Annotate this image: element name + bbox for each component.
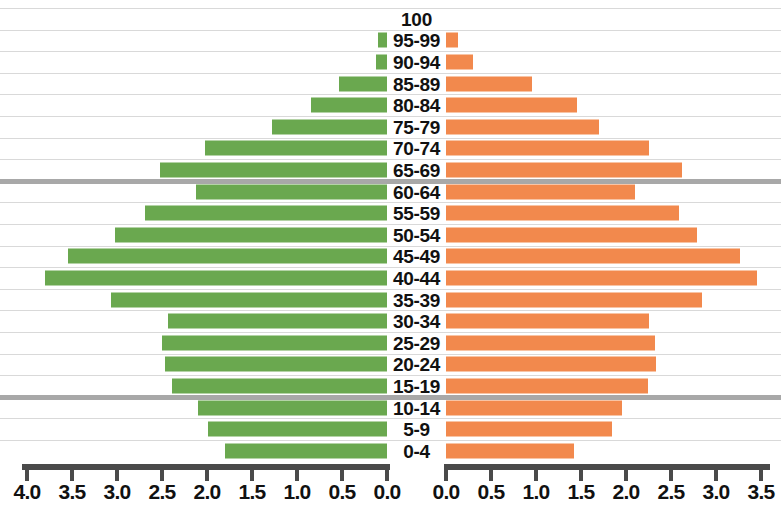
x-tick-label: 1.5 bbox=[568, 481, 595, 503]
age-group-label: 95-99 bbox=[387, 31, 446, 50]
bar-left bbox=[45, 270, 387, 285]
age-group-label: 75-79 bbox=[387, 117, 446, 136]
bar-right bbox=[446, 119, 599, 134]
left-bar-cell bbox=[0, 8, 387, 30]
right-bar-cell bbox=[446, 138, 781, 160]
pyramid-row: 35-39 bbox=[0, 289, 781, 311]
bar-left bbox=[272, 119, 387, 134]
age-group-label: 85-89 bbox=[387, 74, 446, 93]
x-axis-left bbox=[22, 464, 390, 470]
right-bar-cell bbox=[446, 159, 781, 181]
pyramid-row: 90-94 bbox=[0, 51, 781, 73]
bar-left bbox=[162, 335, 387, 350]
bar-left bbox=[225, 443, 387, 458]
pyramid-row: 10-14 bbox=[0, 397, 781, 419]
bar-left bbox=[172, 378, 387, 393]
right-bar-cell bbox=[446, 202, 781, 224]
pyramid-row: 75-79 bbox=[0, 116, 781, 138]
x-tick-label: 3.5 bbox=[59, 481, 86, 503]
left-bar-cell bbox=[0, 159, 387, 181]
bar-right bbox=[446, 443, 574, 458]
bar-left bbox=[198, 400, 387, 415]
bar-right bbox=[446, 98, 577, 113]
age-group-label: 45-49 bbox=[387, 247, 446, 266]
left-bar-cell bbox=[0, 138, 387, 160]
reference-line bbox=[0, 179, 781, 184]
pyramid-row: 30-34 bbox=[0, 310, 781, 332]
age-group-label: 70-74 bbox=[387, 139, 446, 158]
right-bar-cell bbox=[446, 310, 781, 332]
pyramid-row: 20-24 bbox=[0, 354, 781, 376]
right-bar-cell bbox=[446, 73, 781, 95]
x-tick-label: 2.5 bbox=[658, 481, 685, 503]
bar-left bbox=[115, 227, 387, 242]
bar-left bbox=[145, 206, 387, 221]
age-group-label: 15-19 bbox=[387, 376, 446, 395]
population-pyramid-chart: 10095-9990-9485-8980-8475-7970-7465-6960… bbox=[0, 0, 781, 508]
pyramid-row: 80-84 bbox=[0, 94, 781, 116]
pyramid-row: 65-69 bbox=[0, 159, 781, 181]
right-bar-cell bbox=[446, 246, 781, 268]
bar-right bbox=[446, 270, 757, 285]
age-group-label: 65-69 bbox=[387, 160, 446, 179]
left-bar-cell bbox=[0, 224, 387, 246]
left-bar-cell bbox=[0, 94, 387, 116]
bar-left bbox=[378, 33, 387, 48]
bar-right bbox=[446, 292, 702, 307]
age-group-label: 80-84 bbox=[387, 96, 446, 115]
age-group-label: 55-59 bbox=[387, 204, 446, 223]
left-bar-cell bbox=[0, 397, 387, 419]
bar-right bbox=[446, 227, 697, 242]
left-bar-cell bbox=[0, 375, 387, 397]
category-rows: 10095-9990-9485-8980-8475-7970-7465-6960… bbox=[0, 0, 781, 462]
x-tick-label: 3.0 bbox=[703, 481, 730, 503]
x-tick-label: 2.5 bbox=[149, 481, 176, 503]
x-tick-label: 3.0 bbox=[104, 481, 131, 503]
age-group-label: 40-44 bbox=[387, 268, 446, 287]
left-bar-cell bbox=[0, 354, 387, 376]
pyramid-row: 95-99 bbox=[0, 30, 781, 52]
pyramid-row: 25-29 bbox=[0, 332, 781, 354]
left-bar-cell bbox=[0, 116, 387, 138]
bar-left bbox=[196, 184, 387, 199]
bar-right bbox=[446, 249, 740, 264]
pyramid-row: 85-89 bbox=[0, 73, 781, 95]
left-bar-cell bbox=[0, 332, 387, 354]
pyramid-row: 0-4 bbox=[0, 440, 781, 462]
left-bar-cell bbox=[0, 73, 387, 95]
x-tick-label: 0.5 bbox=[329, 481, 356, 503]
bar-right bbox=[446, 357, 656, 372]
x-tick-label: 0.5 bbox=[478, 481, 505, 503]
left-bar-cell bbox=[0, 289, 387, 311]
age-group-label: 30-34 bbox=[387, 312, 446, 331]
plot-area: 10095-9990-9485-8980-8475-7970-7465-6960… bbox=[0, 0, 781, 462]
right-bar-cell bbox=[446, 440, 781, 462]
bar-right bbox=[446, 314, 649, 329]
bar-left bbox=[68, 249, 388, 264]
age-group-label: 0-4 bbox=[387, 441, 446, 460]
left-bar-cell bbox=[0, 418, 387, 440]
bar-left bbox=[165, 357, 387, 372]
bar-right bbox=[446, 400, 622, 415]
bar-left bbox=[205, 141, 387, 156]
bar-right bbox=[446, 422, 612, 437]
x-tick-label: 0.0 bbox=[374, 481, 401, 503]
bar-right bbox=[446, 378, 648, 393]
right-bar-cell bbox=[446, 51, 781, 73]
bar-right bbox=[446, 206, 679, 221]
right-bar-cell bbox=[446, 181, 781, 203]
x-tick-label: 4.0 bbox=[14, 481, 41, 503]
age-group-label: 5-9 bbox=[387, 420, 446, 439]
x-axis-right bbox=[444, 464, 770, 470]
bar-right bbox=[446, 335, 655, 350]
right-bar-cell bbox=[446, 224, 781, 246]
age-group-label: 10-14 bbox=[387, 398, 446, 417]
age-group-label: 50-54 bbox=[387, 225, 446, 244]
bar-right bbox=[446, 76, 532, 91]
x-tick-label: 2.0 bbox=[613, 481, 640, 503]
right-bar-cell bbox=[446, 397, 781, 419]
right-bar-cell bbox=[446, 289, 781, 311]
right-bar-cell bbox=[446, 267, 781, 289]
bar-right bbox=[446, 54, 473, 69]
bar-right bbox=[446, 141, 649, 156]
